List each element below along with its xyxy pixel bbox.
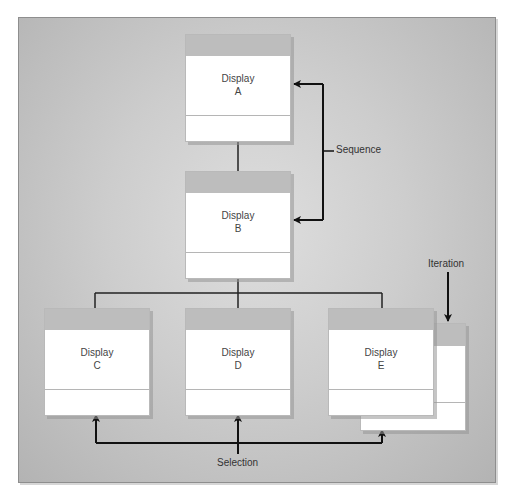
box-label-line2: C: [45, 359, 149, 372]
box-header: [186, 309, 290, 330]
box-label-line2: D: [186, 359, 290, 372]
display-c-box: Display C: [44, 308, 150, 416]
box-label-line1: Display: [186, 72, 290, 85]
display-e-box: Display E: [328, 308, 434, 416]
box-label: Display A: [186, 72, 290, 98]
box-label: Display E: [329, 346, 433, 372]
display-d-box: Display D: [185, 308, 291, 416]
box-footer-divider: [45, 389, 149, 390]
box-label: Display C: [45, 346, 149, 372]
box-footer-divider: [329, 389, 433, 390]
selection-bracket: [96, 415, 382, 454]
iteration-label: Iteration: [428, 258, 464, 269]
box-footer-divider: [186, 252, 290, 253]
display-a-box: Display A: [185, 34, 291, 142]
box-footer-divider: [186, 115, 290, 116]
box-label-line1: Display: [186, 346, 290, 359]
box-label: Display B: [186, 209, 290, 235]
box-footer-divider: [186, 389, 290, 390]
box-header: [329, 309, 433, 330]
box-label-line1: Display: [329, 346, 433, 359]
box-header: [186, 172, 290, 193]
box-label-line2: E: [329, 359, 433, 372]
box-header: [45, 309, 149, 330]
box-label: Display D: [186, 346, 290, 372]
box-label-line1: Display: [186, 209, 290, 222]
box-header: [186, 35, 290, 56]
sequence-bracket: [294, 84, 334, 220]
display-b-box: Display B: [185, 171, 291, 279]
box-label-line2: B: [186, 222, 290, 235]
selection-label: Selection: [217, 457, 258, 468]
box-label-line2: A: [186, 85, 290, 98]
box-label-line1: Display: [45, 346, 149, 359]
sequence-label: Sequence: [336, 144, 381, 155]
